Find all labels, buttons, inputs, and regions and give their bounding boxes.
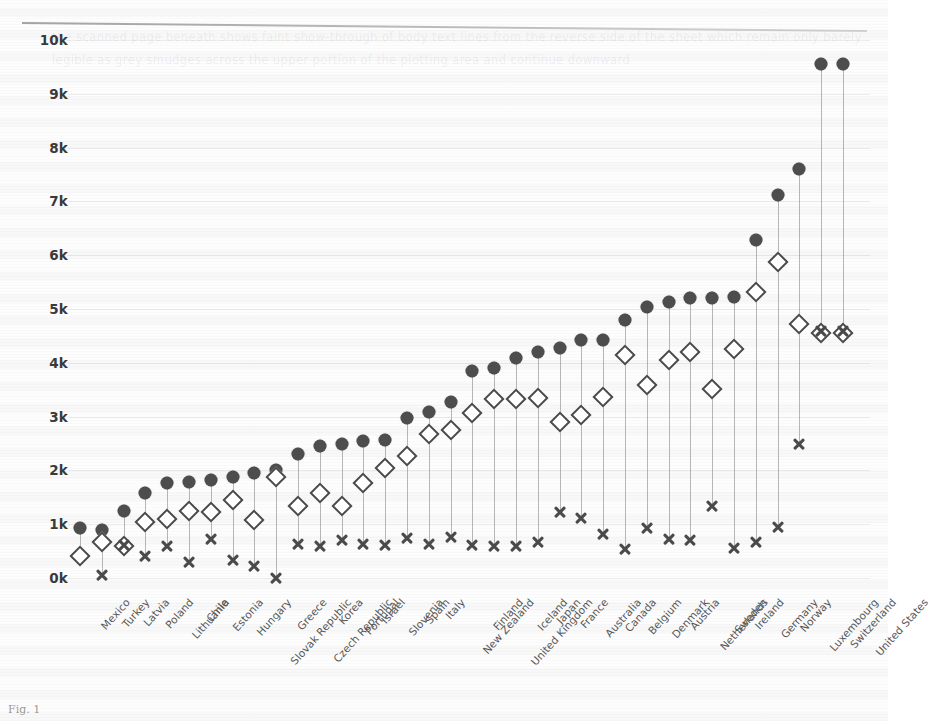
connector-stem — [669, 302, 670, 539]
connector-stem — [734, 297, 735, 549]
connector-stem — [690, 298, 691, 540]
data-point-cross — [531, 535, 545, 549]
data-point-open-diamond — [636, 375, 657, 396]
gridline — [68, 255, 870, 256]
data-point-cross — [422, 537, 436, 551]
data-point-cross — [618, 542, 632, 556]
data-point-filled-circle — [74, 521, 87, 534]
data-point-cross — [487, 539, 501, 553]
data-point-cross — [335, 533, 349, 547]
data-point-open-diamond — [200, 501, 221, 522]
data-point-filled-circle — [292, 448, 305, 461]
data-point-open-diamond — [723, 339, 744, 360]
data-point-filled-circle — [379, 433, 392, 446]
connector-stem — [472, 371, 473, 544]
data-point-open-diamond — [462, 402, 483, 423]
data-point-cross — [574, 511, 588, 525]
data-point-filled-circle — [444, 396, 457, 409]
data-point-cross — [204, 532, 218, 546]
data-point-open-diamond — [287, 496, 308, 517]
y-axis-tick-label: 10k — [40, 32, 68, 48]
data-point-open-diamond — [353, 473, 374, 494]
data-point-open-diamond — [157, 508, 178, 529]
data-point-open-diamond — [309, 482, 330, 503]
data-point-open-diamond — [505, 388, 526, 409]
data-point-filled-circle — [357, 434, 370, 447]
data-point-cross — [313, 539, 327, 553]
data-point-filled-circle — [248, 467, 261, 480]
gridline — [68, 94, 870, 95]
y-axis-tick-label: 1k — [49, 516, 68, 532]
data-point-cross — [662, 532, 676, 546]
data-point-filled-circle — [815, 58, 828, 71]
data-point-cross — [269, 571, 283, 585]
data-point-filled-circle — [422, 406, 435, 419]
data-point-open-diamond — [135, 511, 156, 532]
data-point-filled-circle — [161, 477, 174, 490]
data-point-open-diamond — [549, 411, 570, 432]
data-point-filled-circle — [553, 341, 566, 354]
data-point-cross — [771, 520, 785, 534]
data-point-open-diamond — [789, 313, 810, 334]
data-point-filled-circle — [597, 333, 610, 346]
figure-caption: Fig. 1 — [8, 703, 40, 716]
gridline — [68, 148, 870, 149]
data-point-open-diamond — [375, 457, 396, 478]
connector-stem — [189, 482, 190, 562]
data-point-cross — [596, 527, 610, 541]
data-point-filled-circle — [728, 290, 741, 303]
connector-stem — [778, 195, 779, 527]
data-point-cross — [378, 538, 392, 552]
data-point-cross — [182, 555, 196, 569]
data-point-cross — [683, 533, 697, 547]
connector-stem — [712, 298, 713, 507]
connector-stem — [603, 340, 604, 534]
data-point-open-diamond — [484, 389, 505, 410]
y-axis-tick-label: 5k — [49, 301, 68, 317]
data-point-open-diamond — [527, 387, 548, 408]
data-point-filled-circle — [510, 352, 523, 365]
connector-stem — [799, 169, 800, 443]
gridline — [68, 578, 870, 579]
data-point-open-diamond — [331, 496, 352, 517]
y-axis-tick-label: 0k — [49, 570, 68, 586]
data-point-open-diamond — [244, 509, 265, 530]
data-point-cross — [291, 537, 305, 551]
data-point-filled-circle — [640, 301, 653, 314]
y-axis-tick-label: 9k — [49, 86, 68, 102]
data-point-filled-circle — [139, 486, 152, 499]
gridline — [68, 363, 870, 364]
data-point-open-diamond — [91, 532, 112, 553]
data-point-cross — [444, 530, 458, 544]
data-point-cross — [814, 324, 828, 338]
data-point-cross — [400, 531, 414, 545]
data-point-cross — [117, 538, 131, 552]
data-point-open-diamond — [440, 419, 461, 440]
data-point-open-diamond — [745, 281, 766, 302]
connector-stem — [407, 418, 408, 539]
data-point-cross — [356, 537, 370, 551]
y-axis-tick-label: 7k — [49, 193, 68, 209]
data-point-filled-circle — [226, 470, 239, 483]
data-point-filled-circle — [837, 58, 850, 71]
connector-stem — [385, 440, 386, 545]
connector-stem — [516, 358, 517, 546]
data-point-filled-circle — [466, 365, 479, 378]
connector-stem — [821, 64, 822, 333]
data-point-open-diamond — [418, 424, 439, 445]
data-point-filled-circle — [793, 163, 806, 176]
y-axis-tick-label: 8k — [49, 140, 68, 156]
data-point-open-diamond — [593, 386, 614, 407]
gridline — [68, 309, 870, 310]
data-point-open-diamond — [571, 404, 592, 425]
data-point-filled-circle — [531, 346, 544, 359]
data-point-cross — [727, 541, 741, 555]
data-point-cross — [640, 521, 654, 535]
data-point-open-diamond — [658, 350, 679, 371]
data-point-filled-circle — [117, 505, 130, 518]
connector-stem — [342, 444, 343, 541]
data-point-cross — [226, 553, 240, 567]
data-point-open-diamond — [702, 378, 723, 399]
y-axis-tick-label: 6k — [49, 247, 68, 263]
data-point-filled-circle — [619, 313, 632, 326]
